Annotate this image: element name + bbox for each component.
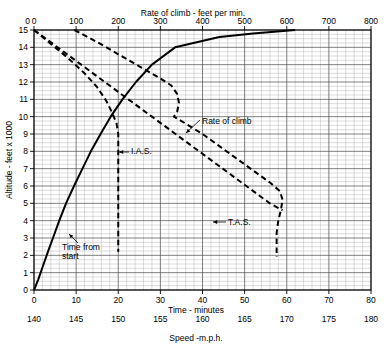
chart-canvas: 0100200300400500600700800 01020304050607… — [0, 0, 386, 346]
top-tick-label: 700 — [322, 16, 336, 26]
top-axis-zero-label: 0 — [25, 16, 30, 26]
speed-tick-label: 170 — [280, 314, 294, 324]
speed-axis-title: Speed -m.p.h. — [169, 333, 222, 343]
speed-tick-label: 145 — [69, 314, 83, 324]
annotation-label: Rate of climb — [202, 116, 252, 126]
left-axis-title: Altitude - feet x 1000 — [4, 121, 14, 199]
altitude-tick-label: 7 — [23, 164, 28, 174]
altitude-tick-label: 2 — [23, 250, 28, 260]
bottom-tick-label: 20 — [114, 295, 124, 305]
altitude-tick-label: 0 — [23, 285, 28, 295]
top-tick-label: 200 — [111, 16, 125, 26]
altitude-tick-label: 8 — [23, 146, 28, 156]
altitude-tick-label: 3 — [23, 233, 28, 243]
altitude-tick-label: 9 — [23, 129, 28, 139]
altitude-tick-label: 4 — [23, 216, 28, 226]
altitude-tick-label: 5 — [23, 198, 28, 208]
climb-performance-chart: 0100200300400500600700800 01020304050607… — [0, 0, 386, 346]
altitude-tick-label: 13 — [19, 60, 29, 70]
bottom-tick-label: 70 — [324, 295, 334, 305]
speed-tick-label: 150 — [111, 314, 125, 324]
altitude-tick-label: 11 — [19, 94, 28, 104]
annotation-label: T.A.S. — [228, 217, 251, 227]
speed-tick-label: 165 — [238, 314, 252, 324]
annotation-label: start — [62, 251, 79, 261]
speed-tick-label: 140 — [27, 314, 41, 324]
altitude-tick-label: 15 — [19, 25, 29, 35]
bottom-tick-label: 30 — [156, 295, 166, 305]
top-axis-title: Rate of climb - feet per min. — [141, 8, 245, 18]
bottom-tick-label: 80 — [366, 295, 376, 305]
bottom-tick-label: 0 — [32, 295, 37, 305]
speed-tick-label: 175 — [322, 314, 336, 324]
bottom-tick-label: 60 — [282, 295, 292, 305]
top-tick-label: 0 — [32, 16, 37, 26]
top-tick-label: 600 — [280, 16, 294, 26]
altitude-tick-label: 1 — [23, 268, 28, 278]
altitude-tick-label: 6 — [23, 181, 28, 191]
bottom-axis-title: Time - minutes — [168, 305, 224, 315]
bottom-tick-label: 10 — [71, 295, 81, 305]
top-tick-label: 800 — [364, 16, 378, 26]
speed-tick-label: 180 — [364, 314, 378, 324]
speed-tick-label: 155 — [153, 314, 167, 324]
bottom-tick-label: 50 — [240, 295, 250, 305]
altitude-tick-label: 14 — [19, 42, 29, 52]
bottom-tick-label: 40 — [198, 295, 208, 305]
speed-tick-label: 160 — [195, 314, 209, 324]
speed-axis-tick-labels: 140145150155160165170175180 — [27, 314, 378, 324]
altitude-tick-label: 10 — [19, 112, 29, 122]
top-tick-label: 100 — [69, 16, 83, 26]
altitude-tick-label: 12 — [19, 77, 29, 87]
annotation-label: I.A.S. — [131, 146, 152, 156]
